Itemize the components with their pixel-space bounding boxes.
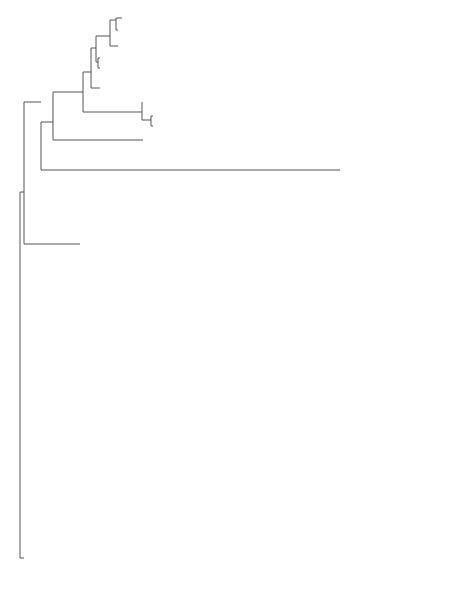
phylogenetic-tree <box>0 0 470 594</box>
tree-branches <box>20 18 340 558</box>
